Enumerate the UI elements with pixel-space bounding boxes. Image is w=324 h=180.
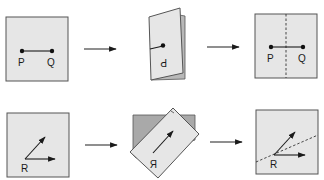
label-p: P (267, 53, 274, 64)
point-q (301, 45, 305, 49)
paper-square (256, 110, 318, 174)
label-q: Q (298, 53, 306, 64)
paper-front-half (149, 8, 183, 80)
row2-unfolded-paper: R (256, 110, 318, 174)
label-p: P (18, 57, 25, 68)
point-q (50, 49, 54, 53)
label-q: Q (47, 57, 55, 68)
row2-original-paper: R (7, 113, 69, 177)
point-p (161, 43, 165, 47)
label-p-mirrored: P (160, 57, 167, 68)
row1-original-paper: P Q (6, 17, 68, 81)
label-r: R (21, 163, 28, 174)
row1-unfolded-paper: P Q (255, 14, 317, 78)
label-r: R (270, 159, 277, 170)
point-p (269, 45, 273, 49)
label-r-mirrored: R (150, 159, 157, 170)
paper-square (6, 17, 68, 81)
folding-diagram: P Q P P Q R R R (0, 0, 324, 180)
point-p (20, 49, 24, 53)
row2-folded-paper: R (130, 108, 199, 178)
row1-folded-paper: P (149, 8, 185, 80)
